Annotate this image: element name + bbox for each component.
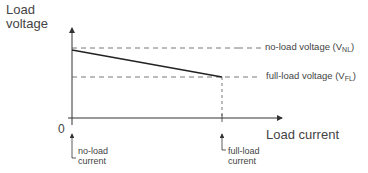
no-load-current-label: no-load current: [78, 146, 108, 166]
full-load-current-label: full-load current: [228, 146, 260, 166]
full-load-voltage-label: full-load voltage (VFL): [266, 70, 356, 82]
full-load-current-pointer: [222, 134, 226, 150]
load-regulation-diagram: [0, 0, 368, 173]
x-axis-label: Load current: [266, 128, 339, 142]
y-axis-label: Load voltage: [6, 3, 48, 31]
y-axis-label-line2: voltage: [6, 17, 48, 31]
load-voltage-curve: [72, 50, 222, 77]
no-load-current-pointer: [72, 134, 76, 158]
no-load-voltage-label: no-load voltage (VNL): [265, 41, 354, 53]
origin-label: 0: [58, 122, 65, 136]
y-axis-label-line1: Load: [6, 3, 48, 17]
